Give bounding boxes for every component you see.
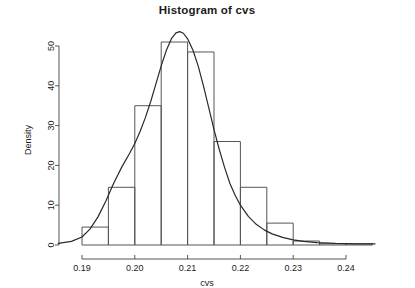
x-tick-label: 0.23 (284, 263, 302, 273)
y-tick-label: 10 (46, 200, 56, 210)
y-tick-label: 50 (46, 41, 56, 51)
x-tick-label: 0.24 (337, 263, 355, 273)
x-tick-label: 0.22 (232, 263, 250, 273)
x-tick-label: 0.19 (73, 263, 91, 273)
x-axis-label: cvs (200, 278, 214, 288)
x-tick-label: 0.20 (126, 263, 144, 273)
y-axis-label: Density (23, 124, 33, 155)
x-tick-label: 0.21 (179, 263, 197, 273)
y-tick-label: 40 (46, 81, 56, 91)
y-tick-label: 0 (46, 242, 56, 247)
y-tick-label: 30 (46, 121, 56, 131)
histogram-plot: Histogram of cvs Density 01020304050 0.1… (0, 0, 415, 288)
y-tick-label: 20 (46, 160, 56, 170)
chart-title: Histogram of cvs (159, 4, 256, 16)
